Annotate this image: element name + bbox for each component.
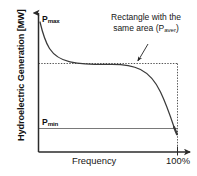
annotation-line-2-prefix: same area (P: [113, 23, 164, 33]
equal-area-rectangle-annotation: Rectangle with the same area (Paver): [98, 12, 194, 34]
pmax-label: Pmax: [42, 15, 60, 25]
generation-duration-curve: [40, 22, 174, 127]
pmax-subscript: max: [48, 17, 60, 24]
pmin-symbol: P: [42, 117, 48, 127]
pmin-subscript: min: [48, 120, 58, 127]
y-axis-title: Hydroelectric Generation [MW]: [16, 0, 26, 150]
x-axis-tick-label-100: 100%: [166, 156, 190, 167]
annotation-line-1: Rectangle with the: [111, 12, 181, 22]
pmax-symbol: P: [42, 14, 48, 24]
annotation-leader-arrow: [138, 44, 148, 61]
annotation-line-2-subscript: aver: [164, 26, 176, 33]
annotation-line-2-suffix: ): [176, 23, 179, 33]
paver-rectangle: [39, 64, 179, 153]
pmin-label: Pmin: [42, 118, 58, 128]
hydroelectric-generation-duration-chart: Hydroelectric Generation [MW] Frequency …: [0, 0, 197, 176]
x-axis-title: Frequency: [72, 156, 116, 167]
